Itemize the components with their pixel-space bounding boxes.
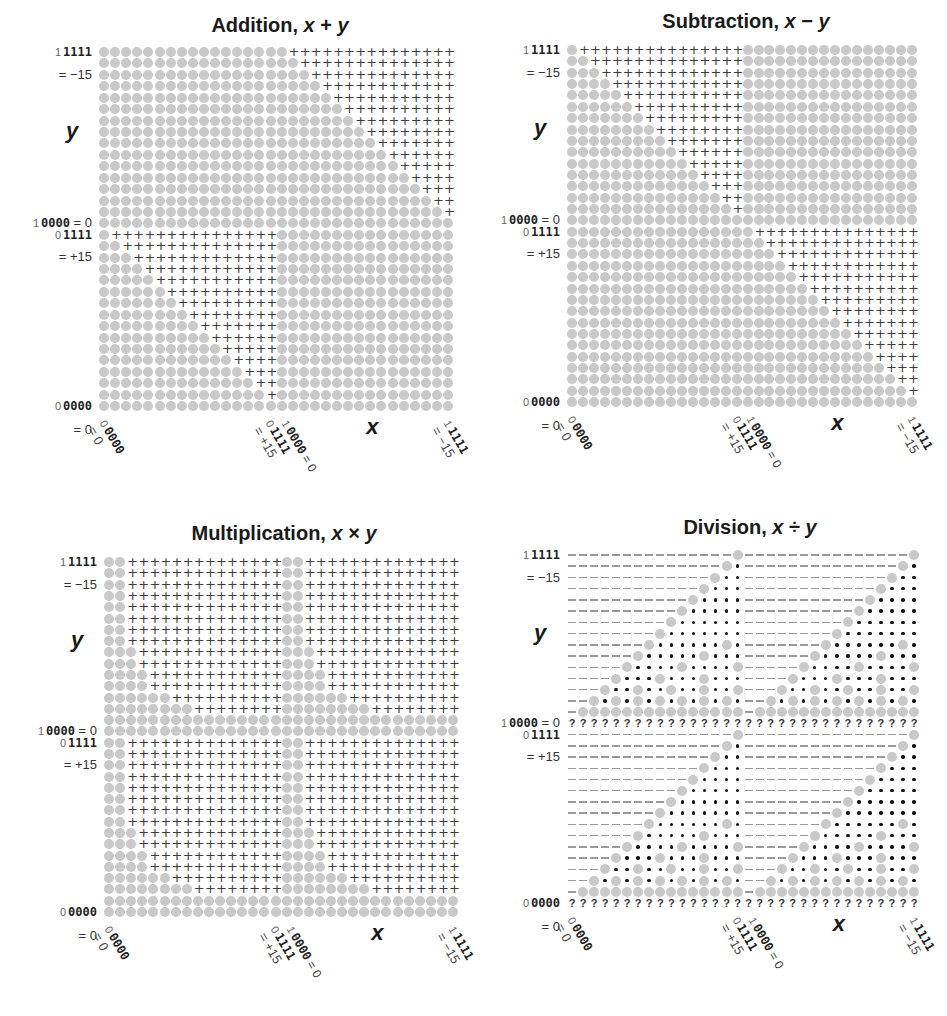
- y-axis-label: y: [534, 620, 546, 646]
- x-tick-neg-zero: 10000 = 0: [744, 414, 784, 470]
- x-tick-zero: 00000= 0: [85, 418, 126, 463]
- title-var-y: y: [806, 516, 817, 538]
- y-tick-pos-max: 01111: [60, 735, 97, 750]
- chart-title: Subtraction, x − y: [662, 10, 829, 33]
- x-tick-neg-zero: 10000 = 0: [278, 418, 318, 474]
- y-tick-top-value: = −15: [527, 570, 560, 585]
- y-tick-top: 11111: [60, 554, 97, 569]
- x-tick-neg-max: 11111= −15: [893, 414, 934, 459]
- y-tick-pos-max: 01111: [55, 227, 92, 242]
- y-tick-pos-max: 01111: [523, 727, 560, 742]
- y-tick-neg-zero: 10000 = 0: [501, 715, 560, 730]
- y-tick-bottom: 00000: [523, 394, 560, 409]
- x-tick-neg-max: 11111= −15: [895, 915, 936, 960]
- title-operator: +: [315, 14, 338, 36]
- x-tick-neg-max: 11111= −15: [429, 418, 470, 463]
- x-tick-pos-max: 01111= +15: [252, 418, 293, 463]
- y-tick-neg-zero: 10000 = 0: [38, 723, 97, 738]
- title-var-x: x: [331, 522, 342, 544]
- title-text: Addition,: [211, 14, 303, 36]
- x-tick-pos-max: 01111= +15: [719, 915, 760, 960]
- x-axis-label: x: [831, 410, 843, 436]
- title-text: Multiplication,: [191, 522, 331, 544]
- title-var-y: y: [338, 14, 349, 36]
- division-chart: Division, x ÷ y 11111= −15y10000 = 00111…: [0, 0, 947, 1016]
- x-tick-neg-max: 11111= −15: [434, 924, 475, 969]
- addition-chart: Addition, x + y 11111= −15y10000 = 00111…: [0, 0, 947, 1016]
- x-tick-neg-zero: 10000 = 0: [283, 924, 323, 980]
- title-text: Division,: [683, 516, 772, 538]
- title-operator: −: [796, 10, 819, 32]
- y-tick-top-value: = −15: [59, 67, 92, 82]
- y-tick-bottom-value: = 0: [74, 422, 92, 437]
- y-tick-neg-zero: 10000 = 0: [33, 215, 92, 230]
- y-tick-top-value: = −15: [64, 577, 97, 592]
- y-tick-pos-max-value: = +15: [64, 757, 97, 772]
- y-tick-pos-max: 01111: [523, 224, 560, 239]
- x-axis-label: x: [371, 920, 383, 946]
- y-tick-top: 11111: [55, 44, 92, 59]
- x-tick-zero: 00000= 0: [553, 915, 594, 960]
- title-var-x: x: [304, 14, 315, 36]
- y-tick-pos-max-value: = +15: [59, 249, 92, 264]
- x-tick-pos-max: 01111= +15: [718, 414, 759, 459]
- title-var-x: x: [785, 10, 796, 32]
- y-tick-bottom: 00000: [55, 398, 92, 413]
- y-tick-top: 11111: [523, 547, 560, 562]
- title-var-y: y: [365, 522, 376, 544]
- y-tick-pos-max-value: = +15: [527, 246, 560, 261]
- y-tick-bottom-value: = 0: [79, 928, 97, 943]
- y-axis-label: y: [66, 118, 78, 144]
- title-text: Subtraction,: [662, 10, 784, 32]
- chart-title: Addition, x + y: [211, 14, 348, 37]
- y-tick-bottom: 00000: [523, 895, 560, 910]
- y-axis-label: y: [534, 115, 546, 141]
- chart-title: Multiplication, x × y: [191, 522, 376, 545]
- y-tick-top: 11111: [523, 42, 560, 57]
- multiplication-chart: Multiplication, x × y 11111= −15y10000 =…: [0, 0, 947, 1016]
- title-operator: ×: [343, 522, 366, 544]
- y-tick-top-value: = −15: [527, 65, 560, 80]
- y-tick-bottom-value: = 0: [542, 418, 560, 433]
- y-axis-label: y: [71, 627, 83, 653]
- x-tick-pos-max: 01111= +15: [257, 924, 298, 969]
- x-tick-zero: 00000= 0: [553, 414, 594, 459]
- title-var-x: x: [772, 516, 783, 538]
- y-tick-pos-max-value: = +15: [527, 749, 560, 764]
- x-tick-zero: 00000= 0: [90, 924, 131, 969]
- x-axis-label: x: [833, 911, 845, 937]
- chart-title: Division, x ÷ y: [683, 516, 816, 539]
- y-tick-neg-zero: 10000 = 0: [501, 212, 560, 227]
- subtraction-chart: Subtraction, x − y 11111= −15y10000 = 00…: [0, 0, 947, 1016]
- title-operator: ÷: [783, 516, 805, 538]
- x-tick-neg-zero: 10000 = 0: [745, 915, 785, 971]
- x-axis-label: x: [366, 414, 378, 440]
- title-var-y: y: [819, 10, 830, 32]
- y-tick-bottom-value: = 0: [542, 919, 560, 934]
- y-tick-bottom: 00000: [60, 904, 97, 919]
